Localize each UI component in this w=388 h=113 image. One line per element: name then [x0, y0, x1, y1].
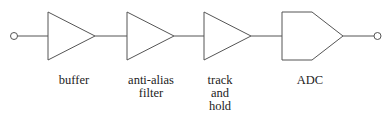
anti-alias-filter-block	[127, 12, 174, 60]
output-terminal	[374, 33, 381, 40]
adc-label: ADC	[290, 74, 330, 87]
label-line: buffer	[46, 74, 102, 87]
label-line: ADC	[290, 74, 330, 87]
track-and-hold-label: track and hold	[200, 74, 240, 113]
track-and-hold-block	[204, 12, 251, 60]
buffer-label: buffer	[46, 74, 102, 87]
label-line: hold	[200, 100, 240, 113]
label-line: filter	[120, 87, 182, 100]
signal-chain-diagram	[0, 0, 388, 113]
anti-alias-filter-label: anti-alias filter	[120, 74, 182, 100]
input-terminal	[11, 33, 18, 40]
buffer-block	[48, 12, 95, 60]
adc-block	[282, 12, 343, 60]
